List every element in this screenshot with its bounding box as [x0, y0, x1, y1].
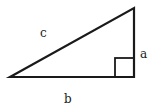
label-leg-b: b	[64, 92, 72, 106]
label-leg-a: a	[140, 47, 147, 61]
label-hypotenuse-c: c	[40, 26, 47, 40]
right-angle-marker	[115, 58, 134, 77]
right-triangle-diagram: c a b	[0, 0, 151, 110]
